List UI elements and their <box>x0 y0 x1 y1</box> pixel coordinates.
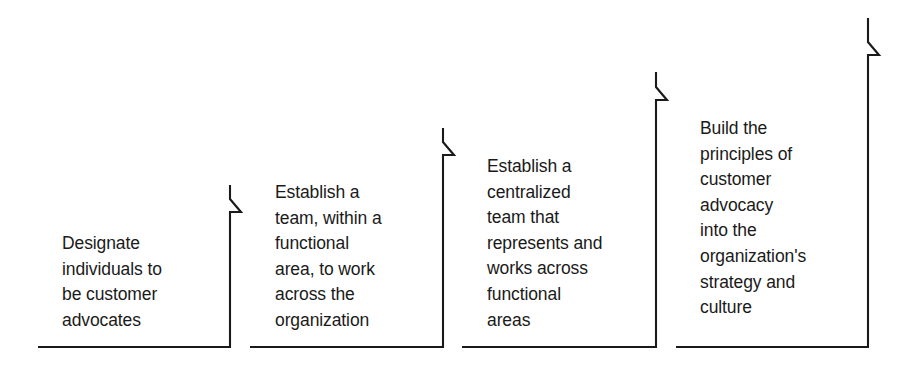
step-label-1: Designate individuals to be customer adv… <box>62 231 222 333</box>
step-label-2: Establish a team, within a functional ar… <box>275 180 435 334</box>
staircase-diagram: Designate individuals to be customer adv… <box>0 0 904 384</box>
step-label-3: Establish a centralized team that repres… <box>487 154 647 333</box>
step-label-4: Build the principles of customer advocac… <box>700 116 870 321</box>
